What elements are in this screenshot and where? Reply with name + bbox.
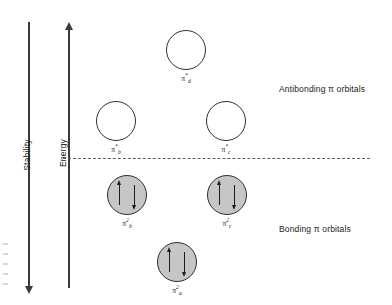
- bonding-region-caption: Bonding π orbitals: [279, 224, 351, 234]
- electron-spin-down-arrowhead-icon: [132, 205, 136, 210]
- mo-energy-diagram: Stability Energy π*d π*b π*c π2b π2c: [0, 0, 392, 305]
- electron-spin-down-shaft: [184, 252, 185, 273]
- electron-spin-up-arrowhead-icon: [117, 180, 121, 185]
- orbital-label-pi-b-2: π2b: [97, 217, 157, 229]
- energy-axis-arrowhead-up-icon: [65, 22, 73, 30]
- page-edge-artifact: [3, 283, 8, 285]
- orbital-label-pi-b-star: π*b: [86, 143, 146, 155]
- orbital-pi-c-star: [206, 101, 246, 141]
- orbital-pi-c-2: [207, 175, 247, 215]
- orbital-subscript: b: [129, 223, 132, 229]
- orbital-subscript: a: [179, 290, 182, 296]
- antibonding-region-caption: Antibonding π orbitals: [279, 84, 365, 94]
- orbital-pi-b-2: [107, 175, 147, 215]
- energy-axis-label: Energy: [58, 123, 68, 183]
- electron-spin-down-arrowhead-icon: [232, 205, 236, 210]
- orbital-label-pi-a-2: π2a: [147, 284, 207, 296]
- orbital-label-pi-d-star: π*d: [156, 72, 216, 84]
- page-edge-artifact: [3, 263, 8, 265]
- orbital-label-pi-c-2: π2c: [197, 217, 257, 229]
- orbital-pi-b-star: [96, 101, 136, 141]
- page-edge-artifact: [3, 253, 8, 255]
- electron-spin-down-shaft: [234, 185, 235, 206]
- orbital-subscript: c: [229, 223, 231, 229]
- electron-spin-down-shaft: [134, 185, 135, 206]
- electron-spin-up-arrowhead-icon: [217, 180, 221, 185]
- orbital-pi-d-star: [166, 30, 206, 70]
- orbital-pi-a-2: [157, 242, 197, 282]
- orbital-subscript: b: [118, 149, 121, 155]
- orbital-subscript: d: [188, 78, 191, 84]
- nonbonding-level-dashed-line: [63, 158, 370, 159]
- electron-spin-up-shaft: [169, 251, 170, 272]
- orbital-label-pi-c-star: π*c: [196, 143, 256, 155]
- page-edge-artifact: [3, 243, 8, 245]
- electron-spin-up-shaft: [119, 184, 120, 205]
- electron-spin-down-arrowhead-icon: [182, 272, 186, 277]
- stability-axis-arrowhead-down-icon: [25, 286, 33, 294]
- electron-spin-up-arrowhead-icon: [167, 247, 171, 252]
- page-edge-artifact: [3, 273, 8, 275]
- electron-spin-up-shaft: [219, 184, 220, 205]
- energy-axis-line: [68, 30, 70, 288]
- stability-axis-label: Stability: [22, 125, 32, 185]
- orbital-subscript: c: [228, 149, 230, 155]
